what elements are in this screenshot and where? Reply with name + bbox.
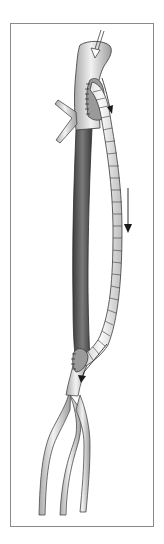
native-descending-aorta <box>73 128 92 362</box>
iliac-bifurcation <box>39 380 90 515</box>
graft-flow-arrow-middle <box>124 188 132 233</box>
arch-branch-vessel <box>55 100 77 143</box>
bypass-illustration <box>0 0 164 544</box>
